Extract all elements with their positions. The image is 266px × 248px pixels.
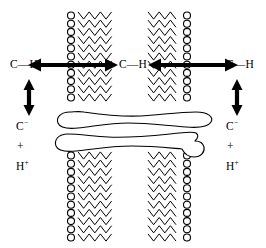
left-proton-symbol: H [16, 160, 25, 172]
right-proton-charge: + [235, 158, 239, 167]
left-carbanion-label: C− [16, 121, 28, 133]
right-carbanion-charge: − [234, 118, 238, 127]
center-ch-bond-label: C—H [119, 59, 147, 71]
right-carbanion-symbol: C [226, 120, 234, 132]
right-carbanion-label: C− [226, 121, 238, 133]
left-plus-sign: + [17, 141, 24, 153]
right-proton-label: H+ [226, 161, 239, 173]
right-proton-symbol: H [226, 160, 235, 172]
left-proton-charge: + [25, 158, 29, 167]
right-vertical-double-arrow [232, 79, 243, 116]
right-plus-sign: + [227, 141, 234, 153]
right-ch-bond-label: C—H [226, 59, 254, 71]
left-carbanion-charge: − [24, 118, 28, 127]
left-horizontal-double-arrow [28, 59, 118, 72]
left-carbanion-symbol: C [16, 120, 24, 132]
figure-canvas: C—H C− + H+ C—H C—H C− + H+ [0, 0, 266, 248]
left-proton-label: H+ [16, 161, 29, 173]
left-ch-bond-label: C—H [10, 59, 38, 71]
right-horizontal-double-arrow [148, 59, 238, 72]
left-vertical-double-arrow [24, 79, 35, 116]
